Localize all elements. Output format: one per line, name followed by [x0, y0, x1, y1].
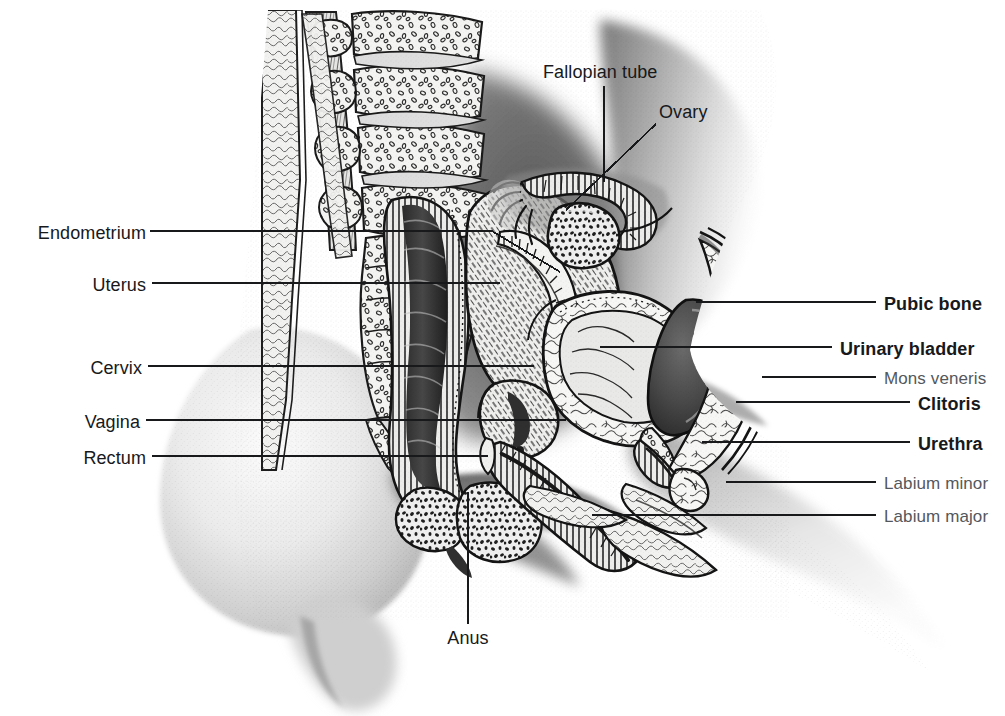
label-clitoris: Clitoris [918, 395, 981, 413]
label-rectum: Rectum [83, 449, 146, 467]
label-labium-major: Labium major [884, 508, 988, 526]
anatomy-figure: Endometrium Uterus Cervix Vagina Rectum … [0, 0, 1005, 716]
label-vagina: Vagina [85, 413, 140, 431]
label-urethra: Urethra [918, 435, 983, 453]
label-ovary: Ovary [659, 103, 708, 121]
label-urinary-bladder: Urinary bladder [840, 340, 975, 358]
label-anus: Anus [447, 629, 488, 647]
label-pubic-bone: Pubic bone [884, 295, 982, 313]
label-fallopian-tube: Fallopian tube [543, 63, 657, 81]
label-endometrium: Endometrium [38, 224, 146, 242]
label-cervix: Cervix [90, 359, 142, 377]
label-mons-veneris: Mons veneris [884, 370, 986, 388]
label-uterus: Uterus [92, 276, 146, 294]
label-labium-minor: Labium minor [884, 475, 988, 493]
